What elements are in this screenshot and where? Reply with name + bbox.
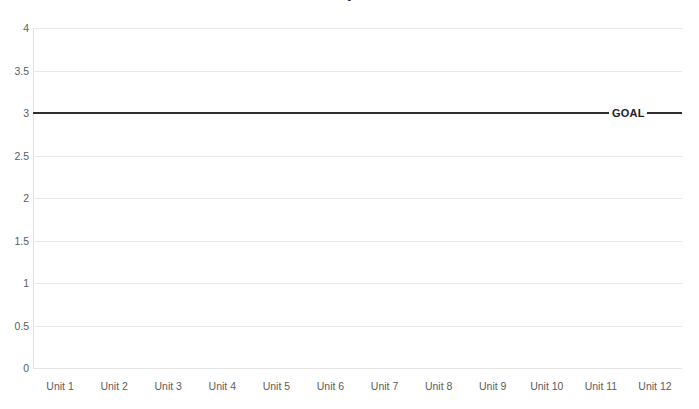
x-tick-label: Unit 8 <box>425 381 452 392</box>
y-tick-label: 3 <box>1 108 29 119</box>
x-tick-label: Unit 7 <box>371 381 398 392</box>
chart-title-clipped: • <box>0 0 699 6</box>
goal-line-segment-right <box>647 112 682 114</box>
y-tick-label: 2 <box>1 193 29 204</box>
x-axis-labels: Unit 1Unit 2Unit 3Unit 4Unit 5Unit 6Unit… <box>0 381 699 397</box>
y-tick-label: 0.5 <box>1 320 29 331</box>
x-tick-label: Unit 10 <box>530 381 563 392</box>
y-tick-label: 2.5 <box>1 150 29 161</box>
x-tick-label: Unit 2 <box>100 381 127 392</box>
x-tick-label: Unit 4 <box>209 381 236 392</box>
y-tick-label: 1 <box>1 278 29 289</box>
gridline-1 <box>33 283 682 284</box>
gridline-1.5 <box>33 241 682 242</box>
gridline-0 <box>33 368 682 369</box>
goal-series-label: GOAL <box>612 108 645 119</box>
y-tick-label: 3.5 <box>1 65 29 76</box>
y-axis-labels: 00.511.522.533.54 <box>0 28 29 368</box>
y-tick-label: 4 <box>1 23 29 34</box>
x-tick-label: Unit 12 <box>638 381 671 392</box>
gridline-4 <box>33 28 682 29</box>
goal-line-segment-left <box>33 112 609 114</box>
goal-line-chart: • GOAL 00.511.522.533.54 Unit 1Unit 2Uni… <box>0 0 699 409</box>
y-tick-label: 0 <box>1 363 29 374</box>
gridline-2.5 <box>33 156 682 157</box>
x-tick-label: Unit 5 <box>263 381 290 392</box>
gridline-2 <box>33 198 682 199</box>
x-tick-label: Unit 6 <box>317 381 344 392</box>
x-tick-label: Unit 11 <box>585 381 618 392</box>
x-tick-label: Unit 3 <box>154 381 181 392</box>
x-tick-label: Unit 9 <box>479 381 506 392</box>
plot-area: GOAL <box>33 28 682 368</box>
x-tick-label: Unit 1 <box>46 381 73 392</box>
gridline-3.5 <box>33 71 682 72</box>
y-tick-label: 1.5 <box>1 235 29 246</box>
gridline-0.5 <box>33 326 682 327</box>
